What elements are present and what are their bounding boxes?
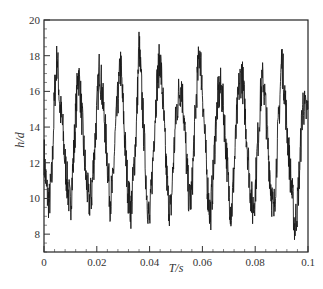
series-line-h-d	[44, 32, 308, 240]
x-tick-label: 0.06	[193, 256, 213, 268]
x-tick-label: 0.1	[301, 256, 315, 268]
y-tick-label: 12	[29, 157, 40, 169]
y-tick-label: 14	[29, 121, 41, 133]
y-axis-label: h/d	[13, 131, 27, 147]
x-axis-label: T/s	[169, 261, 184, 275]
plot-area	[44, 32, 308, 240]
x-tick-label: 0.04	[140, 256, 160, 268]
chart: 8101214161820 00.020.040.060.080.1 T/s h…	[0, 0, 323, 289]
y-tick-label: 20	[29, 14, 41, 26]
x-tick-label: 0	[41, 256, 47, 268]
x-tick-label: 0.08	[246, 256, 266, 268]
x-tick-label: 0.02	[87, 256, 106, 268]
y-axis-ticks: 8101214161820	[29, 14, 50, 252]
y-tick-label: 10	[29, 192, 41, 204]
y-tick-label: 16	[29, 85, 41, 97]
y-tick-label: 18	[29, 50, 41, 62]
y-tick-label: 8	[35, 228, 41, 240]
